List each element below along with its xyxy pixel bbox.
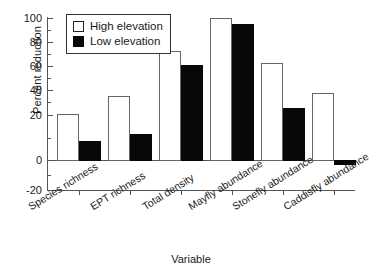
y-tick-label-40: 40 [2, 85, 42, 96]
y-tick-label-100: 100 [2, 13, 42, 24]
bar-low-species-richness [79, 141, 101, 161]
y-tick-label-0: 0 [2, 155, 42, 166]
x-tick-species-richness [79, 190, 80, 195]
x-label-stonefly-abundance: Stonefly abundance [230, 153, 315, 212]
y-tick-label-60: 60 [2, 61, 42, 72]
legend-item-high-elevation: High elevation [73, 19, 163, 34]
x-tick-stonefly-abundance [283, 190, 284, 195]
bar-low-stonefly-abundance [283, 108, 305, 161]
x-tick-mayfly-abundance [232, 190, 233, 195]
bar-low-total-density [181, 65, 203, 161]
open-square-swatch-icon [73, 21, 84, 32]
legend-label-low-elevation: Low elevation [90, 36, 160, 48]
bar-high-caddisfly-abundance [312, 93, 334, 161]
y-axis-line [47, 17, 48, 191]
y-tick-label-20: 20 [2, 110, 42, 121]
x-tick-ept-richness [130, 190, 131, 195]
x-tick-total-density [181, 190, 182, 195]
x-tick-caddisfly-abundance [334, 190, 335, 195]
y-tick-label-80: 80 [2, 37, 42, 48]
bar-high-total-density [159, 51, 181, 161]
legend: High elevation Low elevation [66, 14, 171, 54]
x-label-mayfly-abundance: Mayfly abundance [186, 157, 265, 212]
x-axis-label: Variable [0, 253, 382, 265]
bar-high-mayfly-abundance [210, 18, 232, 161]
bar-low-ept-richness [130, 134, 152, 161]
bar-chart-figure: Percent reduction 100 80 60 40 20 0 -20 [0, 0, 382, 278]
filled-square-swatch-icon [73, 36, 84, 47]
bar-high-species-richness [57, 114, 79, 161]
legend-item-low-elevation: Low elevation [73, 34, 163, 49]
bar-high-ept-richness [108, 96, 130, 161]
x-label-total-density: Total density [140, 171, 196, 212]
bar-low-mayfly-abundance [232, 24, 254, 161]
legend-label-high-elevation: High elevation [90, 21, 163, 33]
bar-high-stonefly-abundance [261, 63, 283, 161]
